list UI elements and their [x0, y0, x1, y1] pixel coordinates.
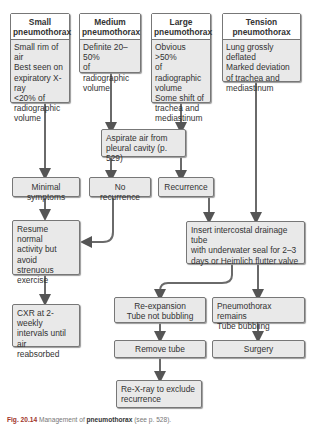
- surgery-box: Surgery: [212, 340, 305, 358]
- small-pneumothorax-title: Small pneumothorax: [11, 14, 69, 40]
- cxr-box: CXR at 2-weekly intervals until air reab…: [12, 304, 80, 347]
- small-pneumothorax-body: Small rim of air Best seen on expiratory…: [11, 40, 69, 126]
- figure-number: Fig. 20.14: [7, 416, 37, 423]
- title-line: Medium: [82, 17, 138, 27]
- medium-pneumothorax-body: Definite 20–50% of radiographic volume: [80, 40, 140, 95]
- medium-pneumothorax-title: Medium pneumothorax: [80, 14, 140, 40]
- title-line: pneumothorax: [225, 27, 298, 37]
- minimal-symptoms-box: Minimal symptoms: [12, 177, 80, 197]
- title-line: Tension: [225, 17, 298, 27]
- tension-pneumothorax-body: Lung grossly deflated Marked deviation o…: [223, 40, 300, 95]
- re-expansion-box: Re-expansion Tube not bubbling: [114, 297, 206, 323]
- tension-pneumothorax-title: Tension pneumothorax: [223, 14, 300, 40]
- caption-bold: pneumothorax: [87, 416, 133, 423]
- title-line: pneumothorax: [13, 27, 67, 37]
- re-xray-box: Re-X-ray to exclude recurrence: [116, 380, 202, 408]
- no-recurrence-box: No recurrence: [89, 177, 151, 197]
- remove-tube-box: Remove tube: [114, 340, 206, 358]
- large-pneumothorax-body: Obvious >50% of radiographic volume Some…: [152, 40, 210, 126]
- title-line: Small: [13, 17, 67, 27]
- title-line: pneumothorax: [82, 27, 138, 37]
- medium-pneumothorax-box: Medium pneumothorax Definite 20–50% of r…: [79, 13, 141, 73]
- resume-activity-box: Resume normal activity but avoid strenuo…: [12, 220, 80, 275]
- title-line: pneumothorax: [154, 27, 208, 37]
- caption-text-end: (see p. 528).: [132, 416, 171, 423]
- large-pneumothorax-box: Large pneumothorax Obvious >50% of radio…: [151, 13, 211, 103]
- pneumothorax-remains-box: Pneumothorax remains Tube bubbling: [212, 297, 305, 323]
- caption-text: Management of: [37, 416, 86, 423]
- title-line: Large: [154, 17, 208, 27]
- recurrence-box: Recurrence: [158, 177, 214, 197]
- large-pneumothorax-title: Large pneumothorax: [152, 14, 210, 40]
- aspirate-air-box: Aspirate air from pleural cavity (p. 529…: [101, 129, 186, 157]
- small-pneumothorax-box: Small pneumothorax Small rim of air Best…: [10, 13, 70, 103]
- insert-drainage-tube-box: Insert intercostal drainage tube with un…: [186, 221, 305, 264]
- figure-caption: Fig. 20.14 Management of pneumothorax (s…: [7, 416, 171, 423]
- tension-pneumothorax-box: Tension pneumothorax Lung grossly deflat…: [222, 13, 301, 82]
